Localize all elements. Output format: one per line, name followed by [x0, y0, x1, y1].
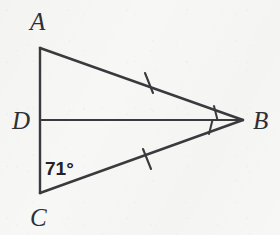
- triangle-diagram: A D C B 71°: [0, 0, 280, 235]
- geometry-figure: A D C B 71°: [0, 0, 280, 235]
- angle-mark-upper-b: [214, 106, 218, 120]
- segment-cb: [40, 120, 243, 193]
- vertex-label-d: D: [11, 107, 30, 134]
- congruence-tick-ab: [145, 73, 153, 93]
- vertex-label-a: A: [28, 8, 46, 35]
- congruence-tick-cb: [143, 149, 151, 169]
- vertex-label-b: B: [253, 107, 268, 134]
- angle-measure-c: 71°: [45, 158, 74, 179]
- segment-ab: [40, 48, 243, 120]
- vertex-label-c: C: [30, 204, 47, 231]
